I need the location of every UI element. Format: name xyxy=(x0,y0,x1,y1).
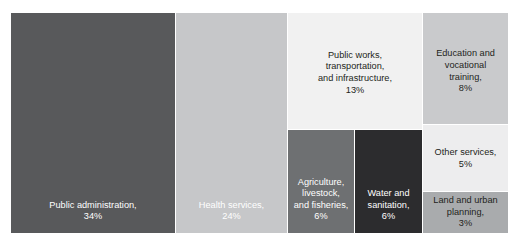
chart-title xyxy=(11,0,505,9)
treemap-plot-area: Public administration, 34% Health servic… xyxy=(11,13,508,233)
treemap-figure: Public administration, 34% Health servic… xyxy=(0,0,515,250)
treemap-cell-public-administration[interactable]: Public administration, 34% xyxy=(11,13,175,233)
treemap-cell-label: Land and urban planning, 3% xyxy=(423,195,508,230)
treemap-cell-water-sanitation[interactable]: Water and sanitation, 6% xyxy=(355,130,422,233)
treemap-cell-public-works[interactable]: Public works, transportation, and infras… xyxy=(288,13,422,129)
treemap-cell-label: Public works, transportation, and infras… xyxy=(288,50,422,96)
treemap-cell-education[interactable]: Education and vocational training, 8% xyxy=(423,13,508,124)
treemap-cell-label: Education and vocational training, 8% xyxy=(423,48,508,94)
treemap-cell-label: Agriculture, livestock, and fisheries, 6… xyxy=(288,177,354,223)
treemap-cell-label: Public administration, 34% xyxy=(11,200,175,223)
treemap-cell-label: Other services, 5% xyxy=(423,147,508,170)
treemap-cell-health-services[interactable]: Health services, 24% xyxy=(176,13,287,233)
treemap-cell-other-services[interactable]: Other services, 5% xyxy=(423,125,508,191)
treemap-cell-label: Health services, 24% xyxy=(176,200,287,223)
treemap-cell-label: Water and sanitation, 6% xyxy=(355,188,422,223)
treemap-cell-agriculture[interactable]: Agriculture, livestock, and fisheries, 6… xyxy=(288,130,354,233)
treemap-cell-land-urban-planning[interactable]: Land and urban planning, 3% xyxy=(423,192,508,233)
